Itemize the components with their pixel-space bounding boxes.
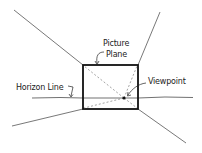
perspective-diagram: Picture Plane Horizon Line Viewpoint (0, 0, 202, 153)
picture-plane-arrow (97, 52, 104, 63)
sight-line-upper-right (124, 66, 137, 98)
sight-line-lower-right (124, 98, 137, 108)
sight-line-lower-left (84, 98, 124, 108)
lower-right-edge (138, 109, 186, 143)
viewpoint-arrow (128, 83, 146, 95)
picture-plane-label-line1: Picture (103, 39, 129, 48)
upper-left-edge (14, 10, 83, 65)
horizon-line-label: Horizon Line (16, 83, 64, 92)
horizon-line-arrow (68, 86, 73, 96)
lower-left-edge (12, 109, 83, 126)
sight-line-upper-left (84, 66, 124, 98)
picture-plane-label-line2: Plane (106, 50, 127, 59)
upper-right-edge (138, 12, 160, 65)
viewpoint-dot (122, 96, 125, 99)
viewpoint-arrowhead (128, 92, 132, 96)
viewpoint-label: Viewpoint (148, 77, 186, 86)
horizon-line (32, 97, 193, 98)
